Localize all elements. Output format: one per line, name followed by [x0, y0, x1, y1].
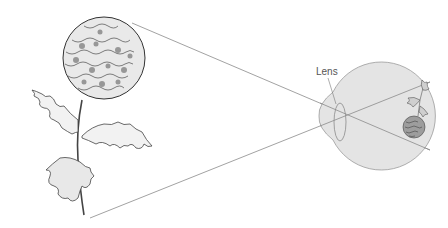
eyeball — [319, 62, 435, 170]
diagram-svg — [0, 0, 448, 228]
flower-drawing — [32, 17, 152, 215]
leaf-upper-left — [32, 90, 78, 134]
leaf-lower — [46, 158, 94, 202]
lens-label: Lens — [316, 66, 338, 77]
diagram-canvas: Lens — [0, 0, 448, 228]
leaf-right — [82, 122, 152, 149]
